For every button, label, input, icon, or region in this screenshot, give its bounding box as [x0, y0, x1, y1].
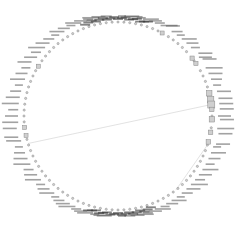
graph-node-highlighted[interactable] — [160, 31, 164, 35]
node-label — [191, 47, 200, 49]
graph-node-highlighted[interactable] — [206, 140, 211, 145]
graph-node[interactable] — [94, 24, 96, 26]
graph-node[interactable] — [185, 51, 187, 53]
graph-node[interactable] — [30, 150, 32, 152]
graph-node[interactable] — [185, 179, 187, 181]
graph-node[interactable] — [162, 197, 164, 199]
graph-node[interactable] — [25, 97, 27, 99]
graph-node[interactable] — [26, 92, 28, 94]
graph-node[interactable] — [57, 42, 59, 44]
graph-node[interactable] — [48, 51, 50, 53]
graph-node[interactable] — [88, 26, 90, 28]
graph-node[interactable] — [199, 70, 201, 72]
graph-node[interactable] — [181, 183, 183, 185]
graph-node[interactable] — [167, 36, 169, 38]
graph-node[interactable] — [152, 28, 154, 30]
graph-node[interactable] — [177, 42, 179, 44]
graph-node[interactable] — [204, 150, 206, 152]
graph-node[interactable] — [28, 86, 30, 88]
graph-node[interactable] — [146, 204, 148, 206]
graph-node[interactable] — [67, 194, 69, 196]
graph-node-highlighted[interactable] — [190, 56, 194, 60]
network-diagram — [0, 0, 239, 231]
graph-node[interactable] — [202, 75, 204, 77]
graph-node[interactable] — [82, 28, 84, 30]
graph-node[interactable] — [44, 175, 46, 177]
graph-node[interactable] — [111, 209, 113, 211]
graph-node[interactable] — [206, 86, 208, 88]
graph-node[interactable] — [30, 80, 32, 82]
graph-node[interactable] — [140, 24, 142, 26]
graph-node[interactable] — [167, 194, 169, 196]
graph-node[interactable] — [146, 26, 148, 28]
graph-node[interactable] — [23, 115, 25, 117]
graph-node[interactable] — [111, 21, 113, 23]
graph-node[interactable] — [38, 165, 40, 167]
graph-node[interactable] — [23, 109, 25, 111]
graph-node[interactable] — [72, 33, 74, 35]
graph-node[interactable] — [32, 155, 34, 157]
graph-node[interactable] — [53, 46, 55, 48]
graph-node[interactable] — [53, 183, 55, 185]
graph-node[interactable] — [172, 39, 174, 41]
graph-node[interactable] — [99, 23, 101, 25]
node-label — [172, 31, 183, 33]
graph-node[interactable] — [152, 202, 154, 204]
graph-node[interactable] — [117, 209, 119, 211]
graph-node[interactable] — [105, 208, 107, 210]
graph-node[interactable] — [193, 170, 195, 172]
graph-node[interactable] — [88, 204, 90, 206]
graph-node[interactable] — [67, 36, 69, 38]
graph-node-highlighted[interactable] — [208, 130, 213, 135]
graph-node[interactable] — [172, 191, 174, 193]
graph-node[interactable] — [189, 175, 191, 177]
graph-node[interactable] — [157, 200, 159, 202]
graph-node[interactable] — [105, 22, 107, 24]
graph-node[interactable] — [129, 22, 131, 24]
node-label — [58, 206, 75, 208]
graph-node[interactable] — [157, 30, 159, 32]
node-label — [220, 108, 234, 110]
graph-node[interactable] — [23, 121, 25, 123]
graph-node[interactable] — [41, 170, 43, 172]
graph-node[interactable] — [35, 160, 37, 162]
graph-node-highlighted[interactable] — [194, 61, 198, 65]
graph-node[interactable] — [123, 209, 125, 211]
graph-node[interactable] — [57, 187, 59, 189]
graph-node-highlighted[interactable] — [206, 91, 212, 97]
graph-node-highlighted[interactable] — [36, 64, 40, 68]
graph-node[interactable] — [123, 21, 125, 23]
graph-node[interactable] — [82, 202, 84, 204]
graph-node[interactable] — [77, 200, 79, 202]
graph-node[interactable] — [135, 23, 137, 25]
graph-node[interactable] — [72, 197, 74, 199]
graph-node[interactable] — [94, 206, 96, 208]
graph-node[interactable] — [44, 55, 46, 57]
graph-node[interactable] — [77, 30, 79, 32]
graph-node[interactable] — [24, 103, 26, 105]
graph-node[interactable] — [199, 160, 201, 162]
graph-node[interactable] — [41, 60, 43, 62]
graph-node-highlighted[interactable] — [210, 107, 215, 112]
graph-node[interactable] — [202, 155, 204, 157]
graph-node[interactable] — [204, 80, 206, 82]
graph-node-highlighted[interactable] — [24, 134, 28, 138]
graph-node[interactable] — [117, 21, 119, 23]
graph-node[interactable] — [210, 127, 212, 129]
graph-node-highlighted[interactable] — [209, 117, 215, 123]
graph-node[interactable] — [129, 208, 131, 210]
graph-node[interactable] — [62, 39, 64, 41]
graph-node[interactable] — [35, 70, 37, 72]
graph-node[interactable] — [181, 46, 183, 48]
graph-node[interactable] — [177, 187, 179, 189]
graph-node[interactable] — [32, 75, 34, 77]
graph-node[interactable] — [62, 191, 64, 193]
graph-node[interactable] — [26, 138, 28, 140]
graph-node[interactable] — [28, 144, 30, 146]
graph-node[interactable] — [196, 165, 198, 167]
graph-node[interactable] — [99, 207, 101, 209]
graph-node[interactable] — [140, 206, 142, 208]
graph-node[interactable] — [48, 179, 50, 181]
graph-node-highlighted[interactable] — [23, 125, 27, 129]
graph-node[interactable] — [135, 207, 137, 209]
